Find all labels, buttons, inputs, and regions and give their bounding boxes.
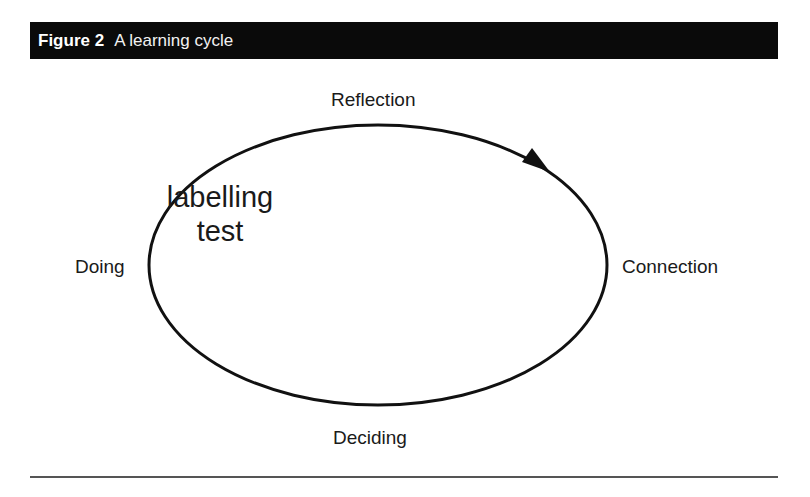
stage-label-doing: Doing: [75, 256, 125, 278]
stage-label-deciding: Deciding: [333, 427, 407, 449]
cycle-arrow-icon: [522, 148, 550, 172]
stage-label-connection: Connection: [622, 256, 718, 278]
annotation-line-1: labelling: [160, 180, 280, 214]
bottom-rule: [30, 476, 778, 478]
stage-label-reflection: Reflection: [331, 89, 416, 111]
cycle-diagram: [0, 0, 810, 497]
annotation-text: labelling test: [160, 180, 280, 248]
annotation-line-2: test: [160, 214, 280, 248]
